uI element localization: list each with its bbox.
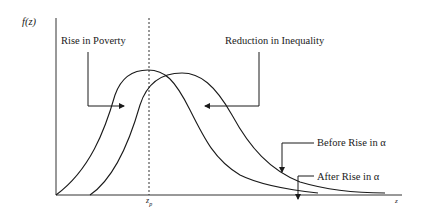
rise-poverty-label: Rise in Poverty xyxy=(61,36,126,47)
reduction-inequality-arrow xyxy=(205,52,259,106)
y-axis-label: f(z) xyxy=(22,17,36,28)
diagram-canvas xyxy=(0,0,421,224)
before-label: Before Rise in α xyxy=(317,138,386,149)
rise-poverty-arrow xyxy=(88,52,124,106)
after-curve xyxy=(56,70,318,195)
after-arrow xyxy=(298,176,314,199)
poverty-line-label: zp xyxy=(146,197,152,207)
before-arrow xyxy=(282,143,314,172)
reduction-inequality-label: Reduction in Inequality xyxy=(225,36,324,47)
x-axis-label: z xyxy=(395,198,398,205)
after-label: After Rise in α xyxy=(317,172,379,183)
